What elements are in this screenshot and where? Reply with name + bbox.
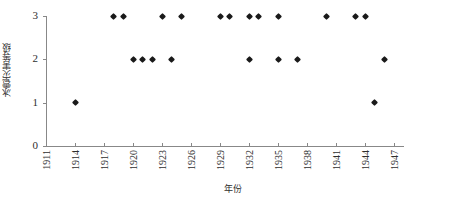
data-point: [139, 56, 146, 63]
data-point: [275, 12, 282, 19]
data-point: [158, 12, 165, 19]
x-axis-tick: [336, 143, 337, 147]
data-point: [110, 12, 117, 19]
data-point: [255, 12, 262, 19]
data-point: [246, 12, 253, 19]
y-axis-tick: [43, 103, 46, 104]
data-point: [217, 12, 224, 19]
y-axis-line: [46, 16, 47, 147]
x-axis-tick-label: 1935: [273, 150, 284, 170]
y-axis-tick: [43, 59, 46, 60]
y-axis-tick-label: 3: [24, 9, 38, 21]
x-axis-tick: [133, 143, 134, 147]
x-axis-tick: [220, 143, 221, 147]
x-axis-tick-label: 1920: [128, 150, 139, 170]
x-axis-tick-label: 1929: [215, 150, 226, 170]
x-axis-tick-label: 1914: [70, 150, 81, 170]
x-axis-tick: [394, 143, 395, 147]
data-point: [178, 12, 185, 19]
data-point: [226, 12, 233, 19]
data-point: [323, 12, 330, 19]
x-axis-tick: [365, 143, 366, 147]
x-axis-tick-label: 1938: [302, 150, 313, 170]
x-axis-tick-label: 1917: [99, 150, 110, 170]
y-axis-title: 冰雹灾害等级: [1, 18, 17, 122]
x-axis-tick: [162, 143, 163, 147]
data-point: [246, 56, 253, 63]
x-axis-tick: [46, 143, 47, 147]
data-point: [120, 12, 127, 19]
y-axis-tick: [43, 16, 46, 17]
x-axis-tick-label: 1947: [389, 150, 400, 170]
x-axis-tick-label: 1932: [244, 150, 255, 170]
data-point: [168, 56, 175, 63]
data-point: [275, 56, 282, 63]
x-axis-tick-label: 1941: [331, 150, 342, 170]
x-axis-title: 年份: [0, 182, 465, 195]
hail-disaster-scatter-chart: 冰雹灾害等级 年份 012319111914191719201923192619…: [0, 0, 465, 204]
x-axis-tick: [191, 143, 192, 147]
y-axis-tick-label: 1: [24, 96, 38, 108]
data-point: [71, 99, 78, 106]
x-axis-tick: [104, 143, 105, 147]
x-axis-tick: [249, 143, 250, 147]
data-point: [381, 56, 388, 63]
x-axis-tick-label: 1944: [360, 150, 371, 170]
x-axis-tick: [75, 143, 76, 147]
data-point: [129, 56, 136, 63]
x-axis-tick-label: 1911: [41, 150, 52, 170]
data-point: [294, 56, 301, 63]
y-axis-tick-label: 2: [24, 52, 38, 64]
x-axis-line: [46, 146, 404, 147]
data-point: [362, 12, 369, 19]
data-point: [371, 99, 378, 106]
x-axis-tick-label: 1923: [157, 150, 168, 170]
data-point: [149, 56, 156, 63]
data-point: [352, 12, 359, 19]
x-axis-tick: [278, 143, 279, 147]
x-axis-tick-label: 1926: [186, 150, 197, 170]
y-axis-tick-label: 0: [24, 139, 38, 151]
x-axis-tick: [307, 143, 308, 147]
figure-caption: [0, 196, 465, 204]
